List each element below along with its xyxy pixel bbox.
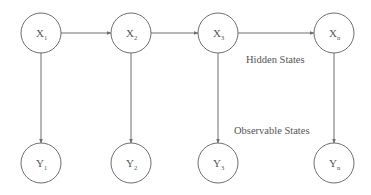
hidden-states-label: Hidden States xyxy=(246,54,305,65)
observable-node-y1: Y1 xyxy=(21,143,61,183)
hidden-node-xn: Xn xyxy=(314,13,354,53)
hmm-diagram: X1X2X3XnY1Y2Y3Yn Hidden States Observabl… xyxy=(0,0,371,195)
observable-node-yn: Yn xyxy=(314,143,354,183)
hidden-node-x3: X3 xyxy=(198,13,238,53)
observable-node-y3: Y3 xyxy=(198,143,238,183)
nodes: X1X2X3XnY1Y2Y3Yn xyxy=(21,13,354,183)
observable-node-y2: Y2 xyxy=(111,143,151,183)
observable-states-label: Observable States xyxy=(234,125,310,136)
hidden-node-x2: X2 xyxy=(111,13,151,53)
hidden-node-x1: X1 xyxy=(21,13,61,53)
